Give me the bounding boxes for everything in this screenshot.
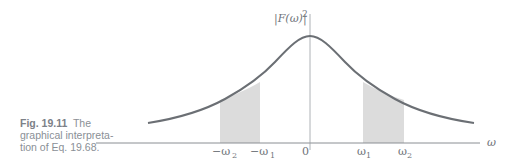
x-axis-label: ω bbox=[487, 136, 496, 149]
tick-neg-omega1: −ω bbox=[250, 145, 268, 158]
tick-omega1-sub: 1 bbox=[366, 151, 371, 160]
bell-curve-diagram: |F(ω)| 2 ω −ω 2 −ω 1 0 ω 1 ω 2 bbox=[0, 0, 519, 166]
tick-neg-omega2-sub: 2 bbox=[232, 151, 237, 160]
tick-omega1: ω bbox=[357, 145, 366, 158]
power-spectrum-curve bbox=[148, 36, 474, 123]
y-axis-exponent: 2 bbox=[302, 9, 308, 19]
tick-omega2: ω bbox=[398, 145, 407, 158]
shaded-region-positive bbox=[363, 82, 404, 143]
tick-zero: 0 bbox=[302, 145, 309, 158]
tick-neg-omega1-sub: 1 bbox=[270, 151, 275, 160]
tick-neg-omega2: −ω bbox=[212, 145, 230, 158]
tick-omega2-sub: 2 bbox=[407, 151, 412, 160]
